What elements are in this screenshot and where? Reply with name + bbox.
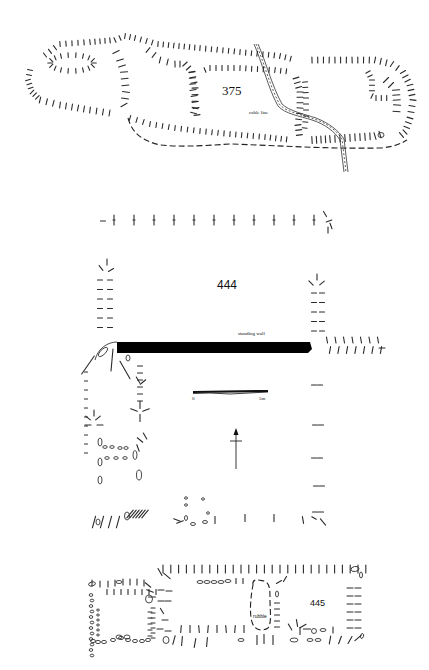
hachure-mark xyxy=(355,347,356,354)
hachure-mark xyxy=(288,624,292,630)
hachure-mark xyxy=(186,66,190,70)
hachure-mark xyxy=(404,126,410,128)
hachure-mark xyxy=(394,105,401,106)
stone xyxy=(96,640,101,643)
structure-444 xyxy=(82,211,385,527)
hachure-mark xyxy=(268,52,269,57)
hachure-mark xyxy=(77,105,78,111)
stone xyxy=(191,523,196,526)
hachure-mark xyxy=(109,110,110,116)
stone xyxy=(140,639,145,642)
stone xyxy=(133,451,137,460)
hachure-mark xyxy=(344,337,345,343)
hachure-mark xyxy=(61,68,62,72)
structure-445-label: 445 xyxy=(310,598,325,608)
stone xyxy=(90,610,94,613)
stone xyxy=(89,594,93,597)
hachure-mark xyxy=(28,87,33,89)
hachure-mark xyxy=(183,62,187,66)
stone xyxy=(146,595,153,603)
stone xyxy=(185,504,188,506)
hachure-mark xyxy=(226,626,227,633)
stone xyxy=(238,639,244,642)
hachure-mark xyxy=(327,337,328,343)
stone xyxy=(123,457,127,460)
hachure-mark xyxy=(66,103,67,109)
hachure-mark xyxy=(286,69,287,74)
hachure-mark xyxy=(330,223,332,229)
hachure-mark xyxy=(276,581,281,584)
hachure-mark xyxy=(145,583,150,587)
hachure-mark xyxy=(369,337,370,343)
hachure-mark xyxy=(108,516,111,528)
hachure-mark xyxy=(54,56,56,60)
hachure-mark xyxy=(286,137,287,142)
hachure-mark xyxy=(191,112,197,114)
stone xyxy=(90,621,94,624)
hachure-mark xyxy=(92,516,95,528)
structure-375-label: 375 xyxy=(222,83,242,99)
hachure-mark xyxy=(400,133,404,138)
stone xyxy=(90,643,94,646)
hachure-mark xyxy=(330,136,331,143)
hachure-mark xyxy=(61,54,62,58)
stone xyxy=(211,581,217,584)
stone xyxy=(290,638,298,642)
hachure-mark xyxy=(295,125,301,126)
wall-corner-arc xyxy=(95,342,117,360)
hachure-mark xyxy=(285,55,286,60)
hachure-mark xyxy=(127,510,133,518)
hachure-mark xyxy=(410,100,416,101)
stone xyxy=(118,447,122,450)
hachure-mark xyxy=(142,510,148,518)
hachure-mark xyxy=(30,90,34,94)
hachure-mark xyxy=(371,94,373,99)
hachure-mark xyxy=(50,64,53,67)
hachure-mark xyxy=(386,60,387,66)
hachure-mark xyxy=(28,70,33,71)
hachure-mark xyxy=(121,72,128,73)
stone xyxy=(97,624,100,626)
hachure-mark xyxy=(400,71,405,74)
structure-375-hachures xyxy=(26,34,416,144)
hachure-mark xyxy=(408,89,414,90)
hachure-mark xyxy=(190,90,196,91)
stone xyxy=(203,521,208,524)
hachure-mark xyxy=(181,126,182,131)
hachure-mark xyxy=(274,53,275,58)
hachure-mark xyxy=(121,78,128,79)
hachure-mark xyxy=(168,125,169,130)
hachure-mark xyxy=(158,569,162,576)
hachure-mark xyxy=(194,115,200,116)
hachure-mark xyxy=(296,87,302,89)
hachure-mark xyxy=(247,133,248,138)
hachure-mark xyxy=(122,85,129,86)
hachure-mark xyxy=(303,122,308,123)
stone xyxy=(185,516,188,521)
hachure-mark xyxy=(241,133,242,138)
hachure-mark xyxy=(131,409,138,411)
hachure-mark xyxy=(110,38,111,43)
stone xyxy=(163,637,169,644)
stone xyxy=(98,438,102,446)
hachure-mark xyxy=(152,53,156,58)
stone xyxy=(103,446,107,449)
stone xyxy=(89,627,93,630)
hachure-mark xyxy=(290,56,291,61)
hachure-mark xyxy=(143,409,150,411)
hachure-mark xyxy=(408,112,414,113)
hachure-mark xyxy=(119,36,121,41)
stone xyxy=(97,634,100,636)
stone xyxy=(98,458,102,466)
hachure-mark xyxy=(146,48,150,53)
hachure-mark xyxy=(117,59,124,61)
hachure-mark xyxy=(120,361,130,378)
hachure-mark xyxy=(297,108,303,109)
hachure-mark xyxy=(204,68,206,73)
stone xyxy=(96,519,100,525)
standing-wall-label: standing wall xyxy=(238,331,265,336)
structure-445-hachures xyxy=(88,565,366,657)
hachure-mark xyxy=(199,626,200,633)
hachure-mark xyxy=(90,40,91,45)
stone xyxy=(197,581,203,584)
